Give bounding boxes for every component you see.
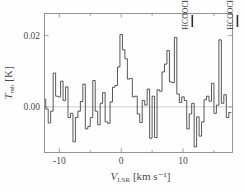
y-axis-label: Tmb [K]: [2, 66, 16, 99]
annotation-label: HCOOCH3 E: [226, 0, 236, 30]
spectrum-trace: [45, 35, 232, 147]
x-tick-label: 0: [119, 156, 124, 166]
x-axis-label: VLSR [km s⁻¹]: [111, 170, 171, 184]
plot-canvas: -100100.000.02VLSR [km s⁻¹]Tmb [K]HCOOCH…: [0, 0, 245, 192]
y-tick-label: 0.00: [23, 102, 40, 112]
y-tick-label: 0.02: [23, 31, 40, 41]
annotation-label-text: HCOOCH3 A: [181, 0, 191, 30]
y-axis-label-text: Tmb [K]: [2, 66, 16, 99]
x-tick-label: -10: [53, 156, 66, 166]
spectrum-figure: -100100.000.02VLSR [km s⁻¹]Tmb [K]HCOOCH…: [0, 0, 245, 192]
annotation-label-text: HCOOCH3 E: [226, 0, 236, 30]
annotation-label: HCOOCH3 A: [181, 0, 191, 30]
x-axis-label-text: VLSR [km s⁻¹]: [111, 170, 171, 184]
x-tick-label: 10: [178, 156, 188, 166]
